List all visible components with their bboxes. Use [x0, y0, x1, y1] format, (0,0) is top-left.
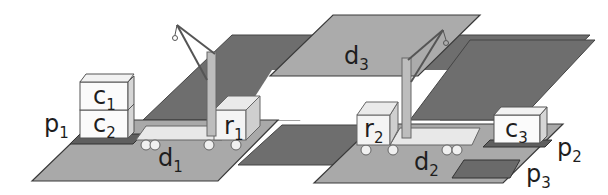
label-p2: p2: [557, 134, 582, 166]
label-p3: p3: [526, 160, 551, 192]
dock-worker-diagram: c1 c2 c3 p1 p2 p3 r1 r2 d1 d2 d3: [0, 0, 608, 195]
pile-p3: [452, 160, 520, 178]
label-p1: p1: [44, 110, 69, 142]
